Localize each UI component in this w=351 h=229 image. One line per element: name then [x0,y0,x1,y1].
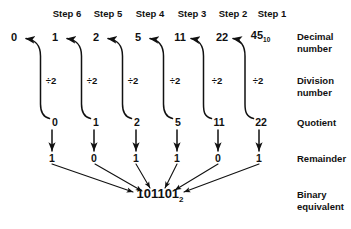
step-header-3: Step 3 [178,9,207,19]
quotient-value: 5 [175,117,181,128]
binary-conversion-diagram: Step 6 Step 5 Step 4 Step 3 Step 2 Step … [0,0,351,229]
remainder-value: 1 [133,153,139,164]
quotient-value: 1 [93,117,99,128]
row-label-decimal-line1: Decimal [297,31,333,43]
decimal-original-digits: 45 [251,29,263,41]
division-operator: ÷2 [170,76,181,86]
row-label-binary-equivalent: Binary equivalent [297,189,344,212]
division-operator: ÷2 [46,76,57,86]
step-header-2: Step 2 [219,9,248,19]
row-label-division-line1: Division [297,75,334,87]
row-label-division-number: Division number [297,75,334,98]
quotient-value: 11 [213,117,224,128]
decimal-value: 0 [11,32,17,43]
remainder-value: 1 [174,153,180,164]
division-operator: ÷2 [87,76,98,86]
decimal-value: 22 [216,32,228,43]
decimal-value: 5 [135,32,141,43]
row-label-quotient-line1: Quotient [297,117,336,129]
row-label-decimal-line2: number [297,43,333,55]
remainder-down-arrows [52,130,259,151]
binary-result: 1011012 [136,186,183,204]
row-label-division-line2: number [297,87,334,99]
decimal-value: 1 [52,32,58,43]
row-label-quotient: Quotient [297,117,336,129]
decimal-base-subscript: 10 [263,36,270,43]
decimal-value: 2 [93,32,99,43]
quotient-value: 2 [134,117,140,128]
division-operator: ÷2 [253,76,264,86]
division-operator: ÷2 [128,76,139,86]
step-header-5: Step 5 [94,9,123,19]
row-label-decimal-number: Decimal number [297,31,333,54]
step-header-4: Step 4 [136,9,165,19]
remainder-value: 1 [49,153,55,164]
row-label-binary-line2: equivalent [297,201,344,213]
binary-base-subscript: 2 [179,195,183,204]
row-label-remainder: Remainder [297,153,346,165]
quotient-value: 0 [52,117,58,128]
remainder-value: 1 [256,153,262,164]
row-label-remainder-line1: Remainder [297,153,346,165]
step-header-6: Step 6 [53,9,82,19]
binary-result-digits: 101101 [136,186,179,201]
step-header-1: Step 1 [258,9,287,19]
decimal-value-original: 4510 [251,30,270,44]
row-label-binary-line1: Binary [297,189,344,201]
quotient-value: 22 [255,117,267,128]
remainder-value: 0 [91,153,97,164]
division-operator: ÷2 [212,76,223,86]
remainder-value: 0 [215,153,221,164]
decimal-value: 11 [174,32,186,43]
